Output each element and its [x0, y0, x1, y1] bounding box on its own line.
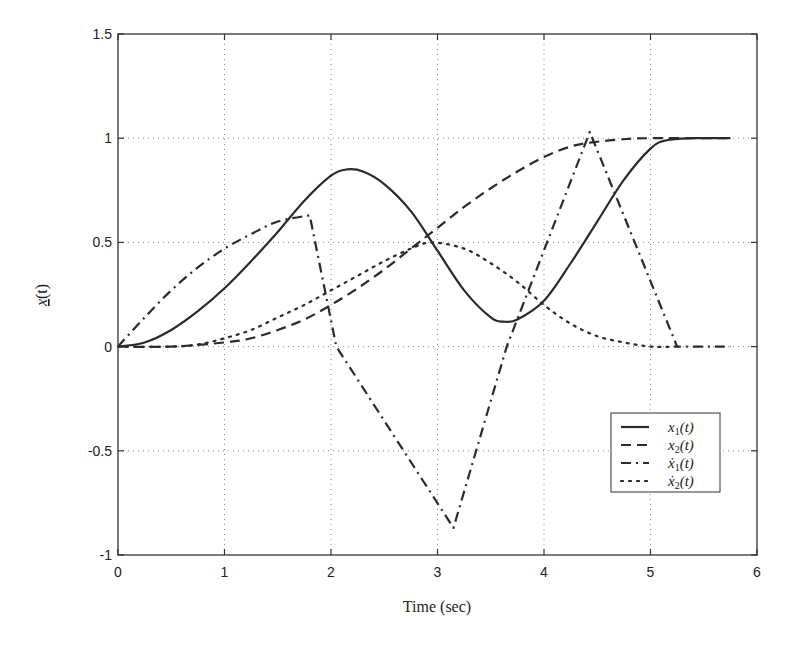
line-chart: 0123456-1-0.500.511.5 Time (sec) x(t) x1…	[0, 0, 798, 654]
legend: x1(t)x2(t)ẋ1(t)ẋ2(t)	[611, 413, 720, 492]
legend-label: x2(t)	[667, 437, 694, 455]
y-tick-label: 0	[104, 339, 112, 355]
y-tick-label: 1.5	[93, 26, 113, 42]
x-tick-label: 0	[114, 564, 122, 580]
x-tick-label: 6	[753, 564, 761, 580]
legend-box	[611, 413, 720, 492]
y-tick-label: 0.5	[93, 234, 113, 250]
series-x2dott	[118, 242, 677, 347]
x-tick-label: 3	[434, 564, 442, 580]
y-axis-label-var: x	[33, 299, 50, 307]
y-tick-label: 1	[104, 130, 112, 146]
legend-label: x1(t)	[667, 419, 694, 437]
svg-text:x(t): x(t)	[33, 284, 51, 307]
x-tick-label: 2	[327, 564, 335, 580]
y-tick-label: -0.5	[88, 443, 112, 459]
x-tick-label: 4	[540, 564, 548, 580]
y-axis-label-arg: (t)	[33, 284, 51, 299]
legend-label: ẋ2(t)	[667, 473, 694, 491]
x-axis-label: Time (sec)	[403, 598, 471, 616]
y-axis-label: x(t)	[33, 284, 51, 307]
y-tick-label: -1	[100, 547, 113, 563]
legend-label: ẋ1(t)	[667, 455, 694, 473]
x-tick-label: 1	[221, 564, 229, 580]
x-tick-label: 5	[647, 564, 655, 580]
